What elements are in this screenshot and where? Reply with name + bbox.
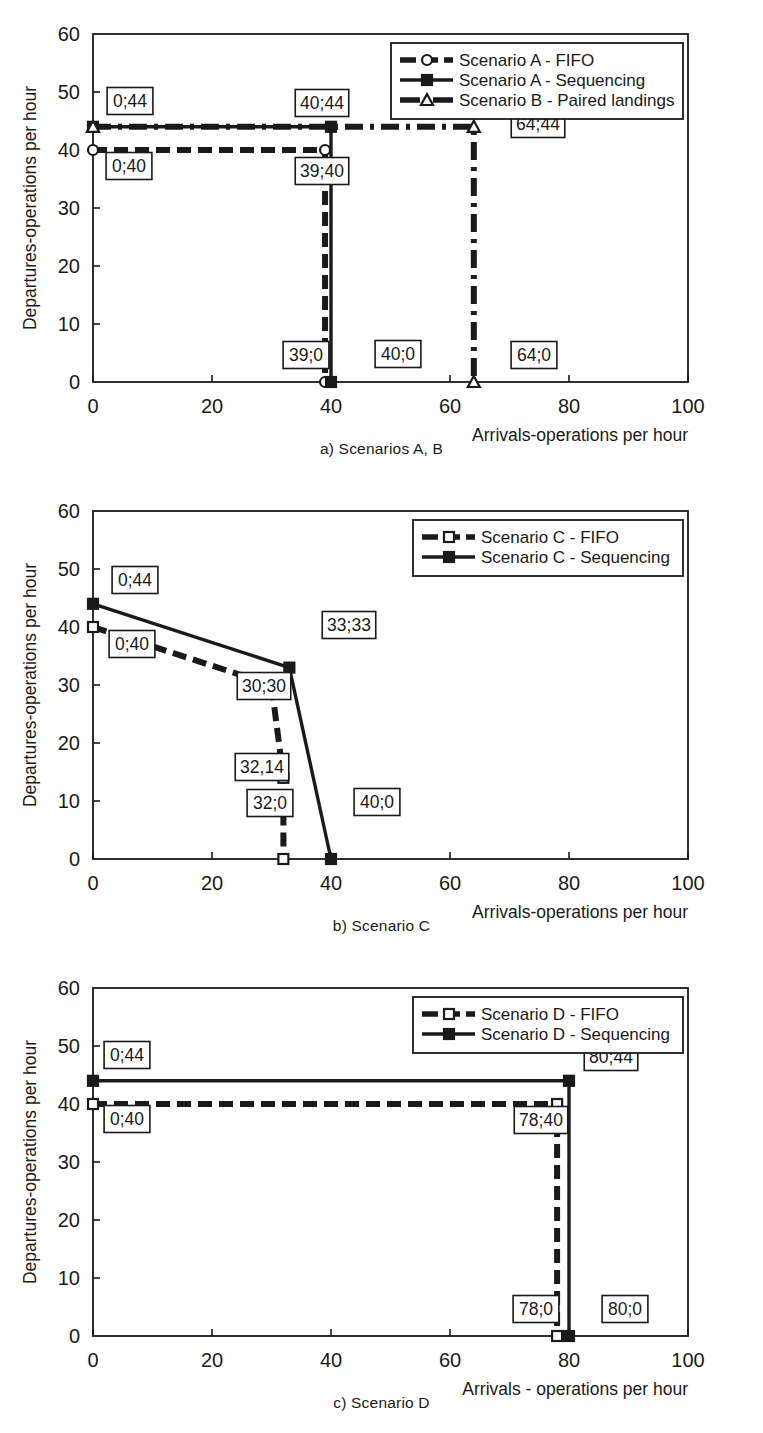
data-point-marker — [468, 376, 480, 387]
chart-panel-c: 0204060801000102030405060Arrivals - oper… — [0, 954, 763, 1431]
series-scenario-d-sequencing — [88, 1076, 574, 1341]
data-point-marker — [552, 1331, 562, 1341]
data-label-text: 64;0 — [517, 345, 551, 365]
y-tick-label: 50 — [58, 81, 80, 103]
data-label-0_44: 0;44 — [107, 88, 153, 115]
data-label-32_14: 32,14 — [235, 754, 289, 781]
legend-marker — [444, 1009, 454, 1019]
y-tick-label: 0 — [69, 1325, 80, 1347]
data-label-64_0: 64;0 — [511, 342, 557, 369]
x-tick-label: 0 — [87, 872, 98, 894]
data-point-marker — [326, 854, 336, 864]
panel-a-caption: a) Scenarios A, B — [0, 440, 763, 458]
data-label-text: 0;40 — [112, 156, 146, 176]
y-tick-label: 40 — [58, 139, 80, 161]
x-tick-label: 20 — [201, 872, 223, 894]
x-tick-label: 0 — [87, 1349, 98, 1371]
data-label-text: 80;0 — [608, 1299, 642, 1319]
chart-b-canvas: 0204060801000102030405060Arrivals-operat… — [0, 477, 763, 954]
x-tick-label: 80 — [558, 1349, 580, 1371]
data-point-marker — [284, 663, 294, 673]
y-axis-title: Departures-operations per hour — [20, 86, 40, 330]
legend-marker — [444, 532, 454, 542]
x-tick-label: 100 — [671, 395, 704, 417]
y-tick-label: 20 — [58, 1209, 80, 1231]
legend: Scenario D - FIFOScenario D - Sequencing — [413, 997, 683, 1053]
y-tick-label: 20 — [58, 732, 80, 754]
legend-marker — [422, 75, 432, 85]
data-label-33_33: 33;33 — [322, 612, 376, 639]
series-line — [93, 1081, 569, 1336]
data-label-text: 32;0 — [253, 793, 287, 813]
chart-panel-a: 0204060801000102030405060Arrivals-operat… — [0, 0, 763, 477]
series-line — [93, 1104, 557, 1336]
data-label-0_44: 0;44 — [104, 1042, 150, 1069]
x-tick-label: 20 — [201, 1349, 223, 1371]
y-tick-label: 0 — [69, 848, 80, 870]
y-tick-label: 60 — [58, 500, 80, 522]
y-tick-label: 10 — [58, 313, 80, 335]
x-tick-label: 40 — [320, 1349, 342, 1371]
panel-b-caption: b) Scenario C — [0, 917, 763, 935]
data-point-marker — [564, 1076, 574, 1086]
legend-marker — [444, 1029, 454, 1039]
y-tick-label: 30 — [58, 674, 80, 696]
data-label-40_44: 40;44 — [295, 90, 349, 117]
data-label-text: 0;44 — [113, 91, 147, 111]
panel-c-caption: c) Scenario D — [0, 1394, 763, 1412]
data-label-text: 40;44 — [300, 93, 344, 113]
data-point-marker — [564, 1331, 574, 1341]
series-line — [93, 627, 283, 859]
legend: Scenario A - FIFOScenario A - Sequencing… — [391, 43, 683, 119]
legend-label: Scenario C - Sequencing — [481, 548, 670, 567]
y-tick-label: 10 — [58, 1267, 80, 1289]
legend-label: Scenario A - Sequencing — [459, 71, 645, 90]
data-label-text: 78;40 — [519, 1110, 563, 1130]
x-tick-label: 40 — [320, 395, 342, 417]
data-label-39_0: 39;0 — [283, 342, 329, 369]
y-tick-label: 30 — [58, 1151, 80, 1173]
data-label-78_0: 78;0 — [513, 1296, 559, 1323]
data-label-text: 0;44 — [110, 1045, 144, 1065]
data-label-text: 30;30 — [242, 676, 286, 696]
data-label-78_40: 78;40 — [514, 1107, 568, 1134]
x-tick-label: 100 — [671, 872, 704, 894]
legend-label: Scenario A - FIFO — [459, 51, 594, 70]
data-label-32_0: 32;0 — [247, 790, 293, 817]
data-label-text: 40;0 — [360, 792, 394, 812]
x-tick-label: 80 — [558, 395, 580, 417]
multi-panel-figure: 0204060801000102030405060Arrivals-operat… — [0, 0, 763, 1431]
legend-label: Scenario B - Paired landings — [459, 91, 674, 110]
data-label-text: 33;33 — [327, 615, 371, 635]
series-layer — [88, 1076, 574, 1341]
series-scenario-d-fifo — [88, 1099, 562, 1341]
data-point-marker — [278, 854, 288, 864]
data-point-marker — [468, 121, 480, 132]
data-label-text: 39;0 — [289, 345, 323, 365]
data-label-text: 0;44 — [118, 570, 152, 590]
chart-a-canvas: 0204060801000102030405060Arrivals-operat… — [0, 0, 763, 477]
data-label-text: 0;40 — [110, 1109, 144, 1129]
legend-label: Scenario D - FIFO — [481, 1005, 619, 1024]
data-point-marker — [326, 377, 336, 387]
chart-c-canvas: 0204060801000102030405060Arrivals - oper… — [0, 954, 763, 1431]
data-label-0_44: 0;44 — [112, 567, 158, 594]
data-label-80_0: 80;0 — [602, 1296, 648, 1323]
data-label-text: 32,14 — [240, 757, 284, 777]
y-tick-label: 20 — [58, 255, 80, 277]
legend-marker — [422, 55, 432, 65]
data-label-0_40: 0;40 — [109, 631, 155, 658]
y-tick-label: 60 — [58, 23, 80, 45]
y-tick-label: 0 — [69, 371, 80, 393]
data-point-marker — [320, 145, 330, 155]
data-label-39_40: 39;40 — [295, 158, 349, 185]
data-label-40_0: 40;0 — [354, 789, 400, 816]
x-tick-label: 80 — [558, 872, 580, 894]
x-tick-label: 60 — [439, 395, 461, 417]
data-label-0_40: 0;40 — [104, 1106, 150, 1133]
data-label-text: 78;0 — [519, 1299, 553, 1319]
x-tick-label: 0 — [87, 395, 98, 417]
data-label-30_30: 30;30 — [237, 673, 291, 700]
y-tick-label: 50 — [58, 558, 80, 580]
data-point-marker — [88, 622, 98, 632]
